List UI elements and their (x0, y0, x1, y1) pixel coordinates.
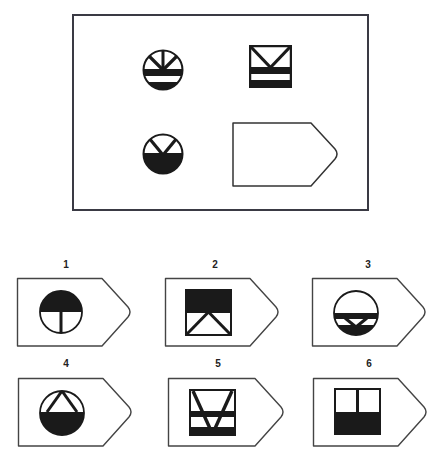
option-4-label: 4 (56, 358, 76, 369)
option-5-square-icon (190, 390, 235, 435)
option-2-square-icon (186, 290, 231, 335)
matrix-cell-bottom-left-circle-icon (142, 133, 184, 175)
option-2-label: 2 (205, 259, 225, 270)
option-5-label: 5 (208, 358, 228, 369)
option-3-label: 3 (358, 259, 378, 270)
matrix-cell-empty-answer-slot (231, 121, 341, 189)
option-6-card[interactable] (312, 377, 430, 449)
option-1-label: 1 (56, 259, 76, 270)
matrix-cell-top-right-square-icon (249, 45, 292, 88)
option-5-card[interactable] (167, 377, 287, 449)
option-2-card[interactable] (164, 277, 282, 349)
option-4-card[interactable] (17, 377, 135, 449)
option-6-label: 6 (359, 358, 379, 369)
option-1-card[interactable] (16, 277, 134, 349)
matrix-cell-top-left-circle-icon (142, 49, 184, 91)
option-6-square-icon (335, 389, 380, 434)
option-3-card[interactable] (311, 277, 429, 349)
